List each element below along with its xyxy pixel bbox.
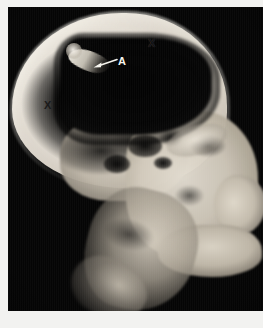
lower-cervical-region	[61, 244, 157, 311]
mandible-region	[158, 225, 262, 277]
bone-fragment-nub	[66, 43, 82, 59]
cervical-column-region	[73, 178, 209, 311]
orbital-lucency-region	[128, 135, 162, 157]
marker-x-occiput: X	[44, 100, 51, 111]
leader-arrow-icon	[92, 57, 118, 69]
calvarium-band-region	[10, 11, 230, 193]
inner-table-shadow-region	[54, 33, 220, 145]
marker-x-vertex: X	[148, 38, 155, 49]
skull-base-region	[60, 115, 188, 201]
radiograph-figure: X X A	[0, 0, 263, 328]
radiograph-plate: X X A	[8, 7, 263, 311]
film-field: X X A	[8, 7, 263, 311]
sphenoid-streak-region	[163, 117, 231, 163]
scan-line-texture	[8, 7, 263, 311]
orbital-lucency-region	[104, 155, 130, 173]
orbital-lucency-region	[154, 157, 172, 169]
intracranial-lucency-region	[60, 37, 212, 135]
facial-bone-mass-region	[126, 111, 258, 257]
marker-a-label: A	[118, 56, 126, 67]
nasal-profile-region	[214, 175, 263, 235]
film-vignette	[8, 7, 263, 311]
